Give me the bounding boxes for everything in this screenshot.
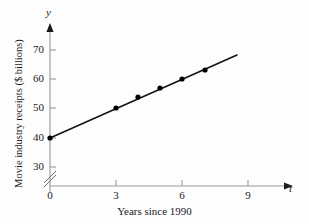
x-axis-title: Years since 1990 xyxy=(0,205,309,217)
y-axis-arrow-icon xyxy=(46,23,53,32)
data-point xyxy=(135,94,140,99)
data-point xyxy=(157,85,162,90)
data-point xyxy=(47,135,52,140)
y-tick-label-70: 70 xyxy=(22,44,44,55)
y-axis-ticks xyxy=(50,50,56,167)
data-point xyxy=(202,67,207,72)
data-point xyxy=(113,105,118,110)
x-axis-variable-label: t xyxy=(289,182,292,194)
y-axis-title: Movie industry receipts ($ billions) xyxy=(13,34,24,194)
y-axis-variable-label: y xyxy=(46,6,51,18)
x-tick-label-0: 0 xyxy=(40,190,60,201)
data-point xyxy=(179,76,184,81)
x-tick-label-3: 3 xyxy=(106,190,126,201)
x-tick-label-6: 6 xyxy=(172,190,192,201)
trend-line xyxy=(50,55,237,138)
y-tick-label-50: 50 xyxy=(22,102,44,113)
y-tick-label-40: 40 xyxy=(22,132,44,143)
x-tick-label-9: 9 xyxy=(238,190,258,201)
y-tick-label-60: 60 xyxy=(22,73,44,84)
y-tick-label-30: 30 xyxy=(22,161,44,172)
chart-figure: 70 60 50 40 30 0 3 6 9 y t Movie industr… xyxy=(0,0,309,224)
